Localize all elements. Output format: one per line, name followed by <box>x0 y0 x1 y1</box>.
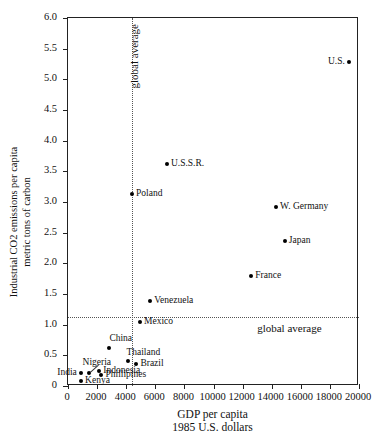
data-point <box>79 379 83 383</box>
x-tick-label: 20000 <box>328 392 382 402</box>
data-point <box>148 299 152 303</box>
data-point-label: Brazil <box>140 359 163 369</box>
y-tick <box>63 233 68 234</box>
data-point-label: India <box>57 368 77 378</box>
data-point-label: Mexico <box>144 317 173 327</box>
y-tick-label: 4.0 <box>0 135 57 145</box>
y-tick-label: 5.5 <box>0 43 57 53</box>
data-point <box>347 60 351 64</box>
vertical-reference-label: global average <box>129 24 140 88</box>
data-point-label: U.S.S.R. <box>171 159 204 169</box>
y-tick-label: 1.0 <box>0 319 57 329</box>
y-tick-label: 5.0 <box>0 73 57 83</box>
data-point <box>107 346 111 350</box>
data-point-label: U.S. <box>328 57 345 67</box>
y-tick <box>63 202 68 203</box>
y-tick <box>63 110 68 111</box>
x-tick <box>155 384 156 389</box>
y-tick-label: 1.5 <box>0 288 57 298</box>
y-tick <box>63 171 68 172</box>
x-tick <box>272 384 273 389</box>
x-tick <box>330 384 331 389</box>
data-point-label: Phillipines <box>105 370 146 380</box>
y-tick-label: 3.5 <box>0 165 57 175</box>
y-tick-label: 6.0 <box>0 12 57 22</box>
y-tick-label: 0 <box>0 380 57 390</box>
y-tick <box>63 18 68 19</box>
co2-vs-gdp-scatter-figure: Industrial CO2 emissions per capita metr… <box>0 0 382 444</box>
y-tick-label: 2.5 <box>0 227 57 237</box>
x-tick <box>243 384 244 389</box>
y-tick <box>63 49 68 50</box>
data-point-label: Venezuela <box>154 297 193 307</box>
data-point <box>79 371 83 375</box>
data-point <box>249 274 253 278</box>
x-tick <box>184 384 185 389</box>
y-tick-label: 3.0 <box>0 196 57 206</box>
x-axis-title-line2: 1985 U.S. dollars <box>67 421 358 434</box>
data-point-label: Thailand <box>126 348 160 358</box>
y-tick-label: 2.0 <box>0 257 57 267</box>
y-tick <box>63 79 68 80</box>
global-average-co2 <box>68 317 359 318</box>
x-tick <box>359 384 360 389</box>
data-point-label: Japan <box>289 237 311 247</box>
y-tick <box>63 325 68 326</box>
data-point <box>130 192 134 196</box>
data-point-label: Poland <box>136 189 162 199</box>
y-tick <box>63 294 68 295</box>
data-point-label: Kenya <box>85 376 110 386</box>
data-point-label: W. Germany <box>280 202 328 212</box>
data-point-label: France <box>255 271 281 281</box>
y-tick <box>63 263 68 264</box>
data-point-label: China <box>109 334 132 344</box>
horizontal-reference-label: global average <box>257 323 321 334</box>
y-tick-label: 4.5 <box>0 104 57 114</box>
data-point <box>165 162 169 166</box>
x-tick <box>214 384 215 389</box>
x-tick <box>301 384 302 389</box>
data-point <box>138 320 142 324</box>
y-tick <box>63 355 68 356</box>
y-tick <box>63 141 68 142</box>
x-tick <box>126 384 127 389</box>
x-tick <box>68 384 69 389</box>
x-axis-title: GDP per capita 1985 U.S. dollars <box>67 408 358 434</box>
x-axis-title-line1: GDP per capita <box>67 408 358 421</box>
data-point <box>126 359 130 363</box>
data-point <box>274 205 278 209</box>
y-axis-title-line2: metric tons of carbon <box>21 177 32 267</box>
y-tick-label: 0.5 <box>0 349 57 359</box>
plot-area: U.S.U.S.S.R.PolandW. GermanyJapanFranceV… <box>67 17 358 385</box>
data-point <box>283 239 287 243</box>
